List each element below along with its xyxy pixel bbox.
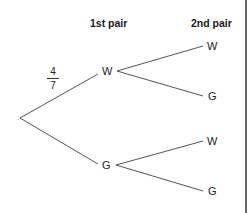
node-first-G: G [102, 159, 111, 171]
branch-G-to-W [116, 141, 203, 165]
tree-diagram [0, 0, 249, 213]
branch-W-to-G [117, 71, 203, 96]
branch-G-to-G [116, 165, 203, 191]
branch-root-to-W [20, 74, 98, 118]
node-W-then-G: G [208, 90, 217, 102]
node-first-W: W [102, 65, 112, 77]
branch-W-to-W [117, 46, 203, 71]
fraction-bar [47, 78, 59, 79]
header-second-pair: 2nd pair [191, 17, 232, 29]
branch-root-to-G [20, 118, 98, 164]
node-G-then-W: W [207, 135, 217, 147]
node-G-then-G: G [208, 185, 217, 197]
header-first-pair: 1st pair [90, 17, 127, 29]
right-border-line [245, 0, 247, 213]
probability-fraction: 4 7 [47, 66, 59, 91]
node-W-then-W: W [207, 40, 217, 52]
fraction-denominator: 7 [50, 80, 56, 91]
fraction-numerator: 4 [50, 66, 56, 77]
